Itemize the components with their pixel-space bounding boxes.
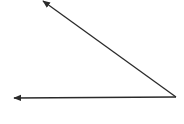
- upper-ray-arrow-icon: [43, 1, 176, 97]
- lower-ray-arrow-icon: [14, 97, 176, 98]
- angle-diagram: [0, 0, 184, 124]
